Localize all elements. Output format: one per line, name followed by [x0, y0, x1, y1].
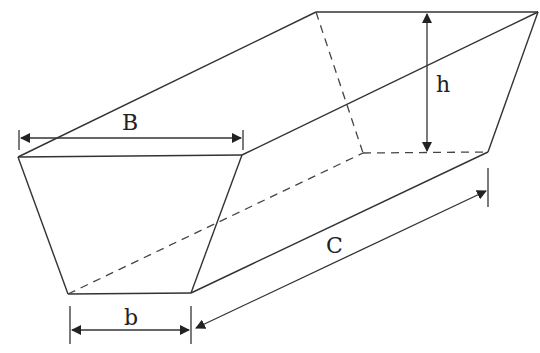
trapezoidal-prism-diagram: B b h C [0, 0, 540, 353]
length-label: C [326, 233, 343, 258]
dimension-bottom-width: b [70, 305, 191, 344]
dimension-height: h [427, 14, 450, 151]
top-width-label: B [122, 110, 138, 135]
dimension-top-width: B [19, 110, 243, 150]
height-label: h [436, 72, 450, 97]
front-face [18, 155, 242, 294]
bottom-width-label: b [124, 305, 138, 330]
longitudinal-edges [18, 12, 538, 293]
dimension-length: C [196, 168, 488, 328]
